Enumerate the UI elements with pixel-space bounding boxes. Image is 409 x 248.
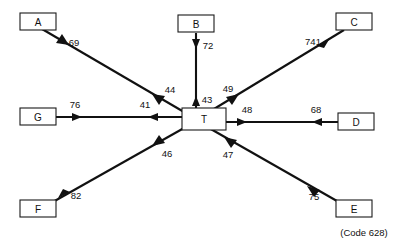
- arrowhead-g-to-t: [72, 113, 82, 121]
- flow-label-a-in: 69: [69, 37, 80, 48]
- flow-label-c-in: 741: [305, 36, 321, 47]
- node-d[interactable]: D: [338, 113, 374, 130]
- node-label-t: T: [201, 114, 207, 125]
- flow-label-d-out: 48: [242, 104, 253, 115]
- edge-group-d: 48 68: [224, 104, 339, 127]
- flow-label-d-in: 68: [311, 104, 322, 115]
- arrowhead-d-to-t: [312, 118, 322, 126]
- arrowhead-b-to-t: [192, 39, 200, 49]
- arrowhead-t-to-g: [148, 113, 158, 121]
- flow-label-e-out: 47: [223, 149, 234, 160]
- edge-group-a: 69 44: [42, 29, 184, 112]
- node-label-b: B: [193, 19, 200, 30]
- node-e[interactable]: E: [336, 200, 372, 217]
- flow-label-b-out: 43: [202, 94, 213, 105]
- flow-label-g-in: 76: [70, 99, 81, 110]
- node-label-c: C: [350, 17, 357, 28]
- arrowhead-t-to-b: [192, 96, 200, 106]
- node-b[interactable]: B: [178, 15, 214, 32]
- flow-label-f-in: 82: [71, 190, 82, 201]
- edge-group-b: 72 43: [192, 33, 213, 108]
- arrowhead-t-to-c: [226, 94, 239, 105]
- arrowhead-t-to-f: [152, 135, 165, 146]
- flow-label-c-out: 49: [223, 83, 234, 94]
- arrowhead-t-to-e: [224, 137, 237, 148]
- node-label-e: E: [351, 204, 358, 215]
- flow-label-a-out: 44: [165, 84, 176, 95]
- diagram-footnote: (Code 628): [340, 227, 388, 238]
- flow-diagram: 76 41 48 68 72 43: [0, 0, 409, 248]
- node-f[interactable]: F: [20, 200, 56, 217]
- node-label-g: G: [34, 112, 42, 123]
- edge-group-c: 741 49: [209, 30, 344, 112]
- edge-group-e: 47 75: [209, 128, 344, 205]
- edge-line-f: [44, 128, 184, 207]
- node-label-a: A: [35, 17, 42, 28]
- flow-label-g-out: 41: [140, 99, 151, 110]
- diagram-canvas: 76 41 48 68 72 43: [0, 0, 409, 248]
- node-label-f: F: [35, 204, 41, 215]
- node-c[interactable]: C: [336, 13, 372, 30]
- edge-group-f: 82 46: [44, 128, 184, 207]
- node-g[interactable]: G: [20, 108, 56, 125]
- flow-label-f-out: 46: [162, 148, 173, 159]
- node-a[interactable]: A: [20, 13, 56, 30]
- flow-label-e-in: 75: [309, 191, 320, 202]
- flow-label-b-in: 72: [203, 40, 214, 51]
- node-t[interactable]: T: [182, 108, 226, 130]
- arrowhead-t-to-d: [237, 118, 247, 126]
- node-label-d: D: [352, 117, 359, 128]
